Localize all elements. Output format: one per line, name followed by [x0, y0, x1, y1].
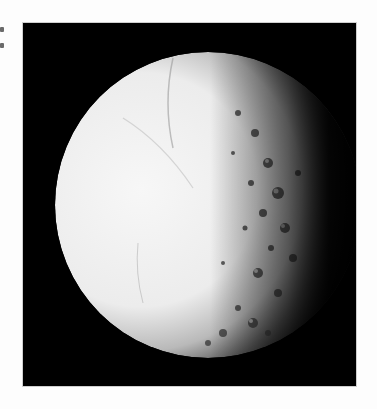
page	[0, 0, 377, 409]
moon-photograph	[23, 23, 356, 386]
edge-text-fragment	[0, 27, 4, 32]
moon-image	[23, 23, 356, 386]
edge-text-fragment	[0, 43, 4, 48]
